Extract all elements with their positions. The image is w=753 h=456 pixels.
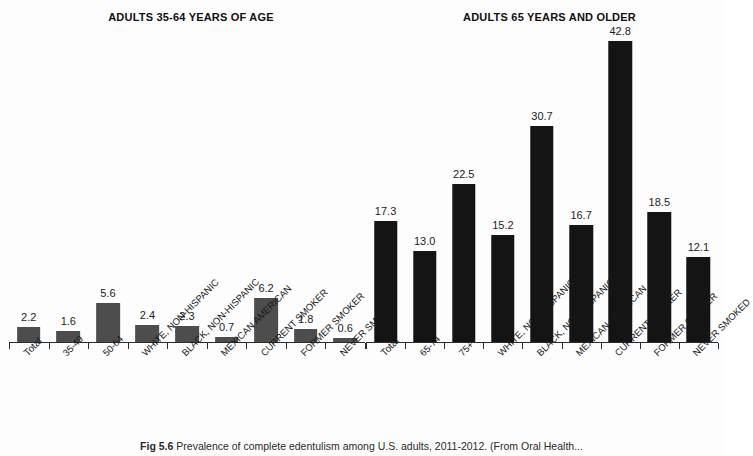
bar-value-label: 13.0 xyxy=(414,236,435,247)
bar-value-label: 17.3 xyxy=(375,206,396,217)
figure-caption-label: Fig 5.6 xyxy=(140,440,173,452)
bar-value-label: 18.5 xyxy=(649,197,670,208)
chart-title-left: ADULTS 35-64 YEARS OF AGE xyxy=(0,11,368,23)
x-axis-tick xyxy=(640,343,641,349)
figure-caption-text: Prevalence of complete edentulism among … xyxy=(176,440,583,452)
bar-group: 15.2 xyxy=(483,26,522,342)
x-axis-tick xyxy=(562,343,563,349)
x-axis-tick xyxy=(207,343,208,349)
bar-value-label: 12.1 xyxy=(688,242,709,253)
bar-value-label: 2.4 xyxy=(140,310,155,321)
bar-group: 2.2 xyxy=(9,26,49,342)
x-axis-tick xyxy=(88,343,89,349)
bar-group: 1.6 xyxy=(49,26,89,342)
x-axis-tick xyxy=(366,343,367,349)
x-axis-tick xyxy=(325,343,326,349)
bar xyxy=(413,251,436,342)
bar-value-label: 2.2 xyxy=(21,312,36,323)
bar xyxy=(452,184,475,342)
bar-value-label: 16.7 xyxy=(570,210,591,221)
x-axis-tick xyxy=(483,343,484,349)
x-axis-tick xyxy=(246,343,247,349)
chart-panel-adults-65-plus: ADULTS 65 YEARS AND OLDER 17.313.022.515… xyxy=(358,0,723,440)
bar-value-label: 15.2 xyxy=(492,220,513,231)
bar-group: 5.6 xyxy=(88,26,128,342)
x-axis-tick xyxy=(128,343,129,349)
bar-value-label: 30.7 xyxy=(531,111,552,122)
chart-panel-adults-35-64: ADULTS 35-64 YEARS OF AGE 2.21.65.62.42.… xyxy=(0,0,368,440)
x-axis-tick xyxy=(601,343,602,349)
x-axis-tick xyxy=(718,343,719,349)
x-axis-tick xyxy=(679,343,680,349)
bar-value-label: 5.6 xyxy=(100,288,115,299)
bar xyxy=(491,235,514,342)
chart-title-right: ADULTS 65 YEARS AND OLDER xyxy=(358,11,723,23)
x-axis-tick xyxy=(286,343,287,349)
bar-value-label: 6.2 xyxy=(258,283,273,294)
bar xyxy=(374,221,397,342)
bar-group: 17.3 xyxy=(366,26,405,342)
bar-group: 13.0 xyxy=(405,26,444,342)
bar-value-label: 42.8 xyxy=(609,26,630,37)
bar-group: 22.5 xyxy=(444,26,483,342)
x-axis-tick xyxy=(405,343,406,349)
x-axis-tick xyxy=(522,343,523,349)
x-axis-tick xyxy=(444,343,445,349)
bar-group: 2.4 xyxy=(128,26,168,342)
x-axis-tick xyxy=(167,343,168,349)
x-axis-tick xyxy=(9,343,10,349)
bar-value-label: 1.6 xyxy=(61,316,76,327)
x-axis-tick xyxy=(49,343,50,349)
bar-value-label: 22.5 xyxy=(453,169,474,180)
figure-caption: Fig 5.6 Prevalence of complete edentulis… xyxy=(0,440,723,452)
bar-value-label: 0.6 xyxy=(338,323,353,334)
